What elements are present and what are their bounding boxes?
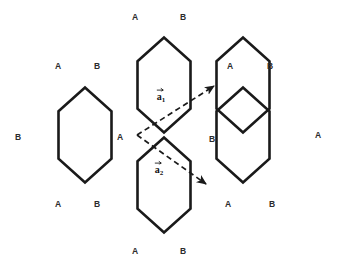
sublattice-label-upper-right-b: B xyxy=(267,62,273,71)
vector-overline-arrow-icon xyxy=(155,161,162,165)
lattice-drawing-canvas xyxy=(0,0,338,268)
sublattice-label-center-a: A xyxy=(117,133,123,142)
vector-label-a2: a2 xyxy=(155,162,164,175)
sublattice-label-lower-right-a: A xyxy=(225,200,231,209)
sublattice-label-center-b: B xyxy=(209,135,215,144)
vector-subscript: 2 xyxy=(160,169,164,177)
sublattice-label-upper-left-b: B xyxy=(94,62,100,71)
sublattice-label-lower-left-a: A xyxy=(55,200,61,209)
sublattice-label-lower-right-b: B xyxy=(269,200,275,209)
vector-subscript: 1 xyxy=(162,96,166,104)
sublattice-label-upper-left-a: A xyxy=(55,62,61,71)
sublattice-label-far-right-a: A xyxy=(315,131,321,140)
sublattice-label-bottom-outer-a: A xyxy=(132,247,138,256)
sublattice-label-bottom-outer-b: B xyxy=(180,247,186,256)
vector-overline-arrow-icon xyxy=(157,88,164,92)
sublattice-label-upper-right-a: A xyxy=(227,62,233,71)
honeycomb-lattice-figure: ABABABBABAABABAB a1a2 xyxy=(0,0,338,268)
sublattice-label-top-outer-b: B xyxy=(180,13,186,22)
sublattice-label-far-left-b: B xyxy=(15,133,21,142)
vector-label-a1: a1 xyxy=(157,89,166,102)
sublattice-label-lower-left-b: B xyxy=(94,200,100,209)
sublattice-label-top-outer-a: A xyxy=(132,13,138,22)
